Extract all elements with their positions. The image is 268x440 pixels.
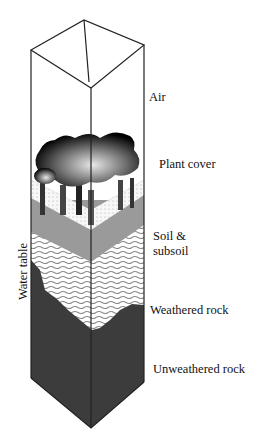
label-weathered-rock: Weathered rock — [150, 303, 228, 317]
label-soil-line2: subsoil — [153, 244, 188, 258]
label-unweathered-rock: Unweathered rock — [153, 362, 245, 376]
label-soil-line1: Soil & — [153, 229, 186, 243]
label-water-table: Water table — [16, 243, 31, 300]
label-plant-cover: Plant cover — [159, 157, 216, 171]
label-air: Air — [149, 90, 166, 104]
